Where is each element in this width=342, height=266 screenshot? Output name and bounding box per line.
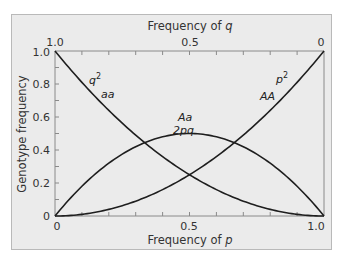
label-AA: AA: [259, 90, 275, 103]
y-tick-0.8: 0.8: [33, 78, 51, 91]
x2-tick-0.5: 0.5: [181, 36, 199, 49]
x-tick-0: 0: [54, 220, 61, 233]
q-var: q: [89, 74, 96, 87]
y-tick-0.6: 0.6: [33, 111, 51, 124]
x-tick-0.5: 0.5: [180, 220, 198, 233]
bottom-axis-var: p: [224, 233, 232, 247]
bottom-axis-title: Frequency of p: [147, 233, 232, 247]
x2-tick-1.0: 1.0: [46, 36, 64, 49]
chart-svg: 0 0.2 0.4 0.6 0.8 1.0 0 0.5 1.0 1.0 0.5 …: [0, 0, 342, 266]
p-exponent: 2: [283, 71, 288, 80]
label-p2: p2: [275, 71, 288, 86]
x-tick-1.0: 1.0: [307, 220, 325, 233]
curve-labels: q2 aa p2 AA Aa 2pq: [89, 71, 288, 137]
y-axis-title: Genotype frequency: [15, 75, 29, 193]
x-tick-labels: 0 0.5 1.0: [54, 220, 325, 233]
q-exponent: 2: [96, 72, 101, 81]
label-aa: aa: [101, 88, 115, 101]
label-q2: q2: [89, 72, 101, 87]
top-axis-var: q: [225, 19, 232, 33]
top-axis-title: Frequency of q: [147, 19, 232, 33]
bottom-axis-title-text: Frequency of: [147, 233, 225, 247]
y-tick-0: 0: [43, 210, 50, 223]
label-Aa: Aa: [177, 111, 193, 124]
p-var: p: [275, 73, 283, 86]
y-tick-0.4: 0.4: [33, 144, 51, 157]
x2-tick-labels: 1.0 0.5 0: [46, 36, 324, 49]
y-tick-labels: 0 0.2 0.4 0.6 0.8 1.0: [33, 46, 51, 223]
top-axis-title-text: Frequency of: [147, 19, 225, 33]
y-tick-0.2: 0.2: [33, 177, 51, 190]
x2-tick-0: 0: [318, 36, 325, 49]
label-2pq: 2pq: [173, 124, 194, 137]
